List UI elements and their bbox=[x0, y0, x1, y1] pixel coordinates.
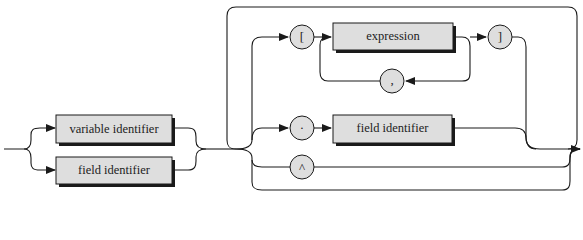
comma-symbol: , bbox=[380, 73, 404, 86]
entry-path bbox=[4, 128, 55, 170]
field-identifier-selector-label: field identifier bbox=[333, 122, 452, 135]
open-bracket-symbol: [ bbox=[290, 30, 314, 43]
field-identifier-entry-label: field identifier bbox=[56, 164, 172, 177]
variable-identifier-label: variable identifier bbox=[56, 123, 172, 136]
caret-symbol: ^ bbox=[290, 161, 314, 174]
expression-label: expression bbox=[333, 30, 453, 43]
selector-branches bbox=[236, 37, 580, 190]
dot-symbol: · bbox=[290, 121, 314, 134]
close-bracket-symbol: ] bbox=[488, 30, 512, 43]
